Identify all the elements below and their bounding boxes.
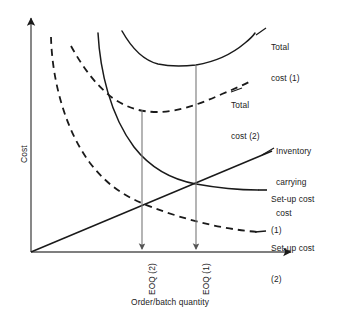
series-label-inventory-carrying-cost-line1: Inventory [276, 146, 311, 156]
setup-cost-2-curve [51, 37, 258, 232]
series-label-total-cost-1-line2: cost (1) [271, 73, 300, 83]
series-label-total-cost-2-line1: Total [231, 100, 260, 110]
total-cost-1-leader [256, 28, 266, 35]
total-cost-2-curve [71, 46, 249, 112]
inventory-carrying-cost-line [31, 151, 272, 252]
series-label-total-cost-2: Total cost (2) [231, 79, 260, 162]
setup-cost-2-leader [255, 231, 266, 232]
total-cost-1-curve [122, 31, 255, 66]
y-axis-label: Cost [19, 145, 29, 163]
series-label-total-cost-1: Total cost (1) [271, 21, 300, 104]
x-axis-label: Order/batch quantity [110, 297, 230, 307]
eoq-chart: Cost Order/batch quantity Total cost (1)… [0, 0, 338, 320]
series-label-setup-cost-2-line1: Set-up cost [271, 243, 314, 253]
series-label-setup-cost-2-line2: (2) [271, 274, 314, 284]
series-label-total-cost-1-line1: Total [271, 42, 300, 52]
series-label-setup-cost-1-line1: Set-up cost [271, 194, 314, 204]
series-label-total-cost-2-line2: cost (2) [231, 131, 260, 141]
series-label-setup-cost-2: Set-up cost (2) [271, 222, 314, 305]
annotation-eoq-2: EOQ (2) [147, 263, 157, 295]
annotation-eoq-1: EOQ (1) [201, 263, 211, 295]
